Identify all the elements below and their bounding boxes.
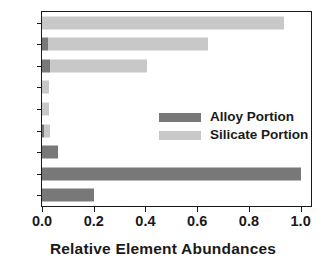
x-axis-tick	[94, 206, 95, 212]
bar-stack-al	[42, 102, 49, 115]
bar-row	[42, 55, 311, 77]
bar-segment	[48, 38, 207, 51]
y-axis-tick	[37, 23, 42, 24]
x-axis-tick	[145, 206, 146, 212]
legend-swatch-silicate	[159, 131, 201, 140]
bar-stack-si	[42, 38, 208, 51]
legend-swatch-alloy	[159, 113, 201, 122]
bar-row	[42, 163, 311, 185]
bar-segment	[42, 167, 301, 180]
bar-segment	[42, 59, 50, 72]
plot-area: OSiMgNaAlCaNiFeS 0.00.20.40.60.81.0 Allo…	[41, 11, 312, 207]
bar-row	[42, 12, 311, 34]
x-axis-tick-label: 0.0	[32, 214, 52, 229]
y-axis-tick	[37, 109, 42, 110]
chart-figure: OSiMgNaAlCaNiFeS 0.00.20.40.60.81.0 Allo…	[0, 0, 326, 270]
x-axis-tick	[301, 206, 302, 212]
x-axis-tick-label: 0.2	[84, 214, 104, 229]
chart-legend: Alloy Portion Silicate Portion	[159, 108, 308, 144]
legend-label-alloy: Alloy Portion	[210, 110, 294, 124]
bar-stack-na	[42, 81, 49, 94]
x-axis-tick	[42, 206, 43, 212]
x-axis-tick-label: 0.8	[239, 214, 259, 229]
y-axis-tick	[37, 174, 42, 175]
x-axis-title: Relative Element Abundances	[0, 240, 326, 258]
y-axis-tick	[37, 152, 42, 153]
bar-row	[42, 34, 311, 56]
legend-label-silicate: Silicate Portion	[210, 128, 308, 142]
y-axis-tick	[37, 131, 42, 132]
bar-stack-ni	[42, 146, 58, 159]
bar-segment	[50, 59, 147, 72]
x-axis-tick-label: 0.4	[135, 214, 155, 229]
bar-row	[42, 141, 311, 163]
y-axis-tick	[37, 87, 42, 88]
bar-stack-ca	[42, 124, 50, 137]
y-axis-tick	[37, 195, 42, 196]
y-axis-tick	[37, 66, 42, 67]
x-axis-tick	[249, 206, 250, 212]
bar-stack-o	[42, 16, 284, 29]
bar-stack-mg	[42, 59, 147, 72]
bar-row	[42, 77, 311, 99]
bar-stack-fe	[42, 167, 301, 180]
bar-stack-s	[42, 189, 94, 202]
y-axis-tick	[37, 44, 42, 45]
legend-item-silicate: Silicate Portion	[159, 126, 308, 144]
x-axis-tick	[197, 206, 198, 212]
bar-segment	[42, 81, 49, 94]
bar-segment	[42, 16, 284, 29]
bar-row	[42, 184, 311, 206]
x-axis-tick-label: 1.0	[291, 214, 311, 229]
bar-segment	[42, 189, 94, 202]
bar-segment	[44, 124, 50, 137]
legend-item-alloy: Alloy Portion	[159, 108, 308, 126]
bar-segment	[42, 146, 58, 159]
bar-segment	[42, 102, 49, 115]
x-axis-tick-label: 0.6	[187, 214, 207, 229]
